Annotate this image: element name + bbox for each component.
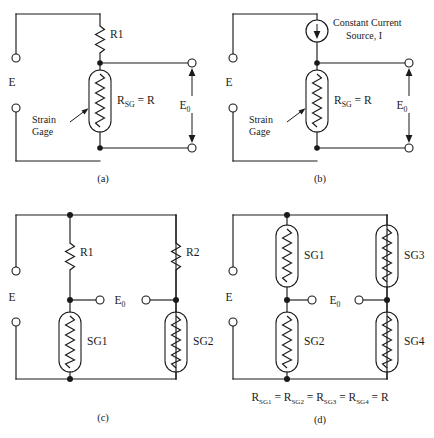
- strain-gage-d-sg1-zigzag: [283, 229, 292, 282]
- supply-terminal-b-top: [229, 54, 237, 62]
- junction-node-c-bottom-left: [67, 376, 73, 382]
- resistor-label-c-r2: R2: [186, 246, 200, 258]
- output-label-b: E0: [397, 99, 408, 114]
- panel-caption-d: (d): [314, 414, 327, 426]
- output-label-c: E0: [115, 294, 126, 309]
- strain-gage-label-b: RSG = R: [334, 94, 372, 109]
- supply-terminal-a-top: [12, 54, 20, 62]
- output-arrow-a-down-head: [189, 135, 196, 143]
- output-terminal-c-left: [96, 296, 104, 304]
- strain-gage-label-c-sg2: SG2: [193, 335, 214, 347]
- circuit-panel-d: E SG1 SG2 SG3: [217, 195, 434, 438]
- resistor-a-r1-symbol: [96, 26, 105, 53]
- supply-terminal-d-top: [229, 267, 237, 275]
- output-label-d: E0: [330, 294, 341, 309]
- supply-label-c: E: [8, 291, 15, 303]
- output-terminal-d-left: [308, 296, 316, 304]
- strain-gage-label-d-sg3: SG3: [404, 249, 425, 261]
- supply-label-b: E: [225, 76, 232, 88]
- output-arrow-b-up-head: [406, 68, 413, 76]
- output-terminal-b-bottom: [405, 144, 413, 152]
- circuit-diagram-a: E R1 RSG = R Strain Gage: [0, 0, 217, 195]
- strain-gage-label-d-sg2: SG2: [304, 335, 325, 347]
- circuit-panel-b: E Constant Current Source, I RSG = R Str…: [217, 0, 434, 195]
- supply-terminal-c-top: [12, 267, 20, 275]
- resistor-label-c-r1: R1: [80, 246, 94, 258]
- supply-terminal-d-bottom: [229, 318, 237, 326]
- panel-caption-b: (b): [314, 173, 327, 185]
- strain-gage-label-a: RSG = R: [117, 94, 155, 109]
- current-source-label-b-line2: Source, I: [346, 30, 382, 41]
- strain-gage-label-d-sg4: SG4: [404, 335, 425, 347]
- supply-terminal-b-bottom: [229, 104, 237, 112]
- circuit-panel-c: E R1 SG1 R2 SG2: [0, 195, 217, 438]
- panel-caption-c: (c): [97, 412, 109, 424]
- output-terminal-a-bottom: [188, 144, 196, 152]
- supply-label-a: E: [8, 76, 15, 88]
- output-terminal-a-top: [188, 59, 196, 67]
- circuit-diagram-d: E SG1 SG2 SG3: [217, 195, 434, 438]
- output-terminal-c-right: [142, 296, 150, 304]
- supply-label-d: E: [225, 291, 232, 303]
- strain-gage-c-sg1-zigzag: [66, 316, 75, 368]
- supply-terminal-a-bottom: [12, 104, 20, 112]
- resistor-label-a-r1: R1: [110, 28, 124, 40]
- strain-gage-d-sg2-zigzag: [283, 316, 292, 368]
- output-terminal-d-right: [355, 296, 363, 304]
- annotation-arrow-head-b: [299, 108, 306, 114]
- circuit-panel-a: E R1 RSG = R Strain Gage: [0, 0, 217, 195]
- output-arrow-b-down-head: [406, 135, 413, 143]
- equation-d: RSG1 = RSG2 = RSG3 = RSG4 = R: [251, 391, 389, 406]
- strain-gage-annotation-b-line2: Gage: [249, 126, 271, 137]
- strain-gage-b-zigzag: [313, 74, 322, 127]
- supply-terminal-c-bottom: [12, 318, 20, 326]
- output-terminal-b-top: [405, 59, 413, 67]
- junction-node-d-bottom-left: [284, 376, 290, 382]
- annotation-arrow-head-a: [82, 108, 89, 114]
- strain-gage-annotation-a-line1: Strain: [32, 114, 56, 125]
- strain-gage-a-zigzag: [96, 74, 105, 127]
- figure-sheet: E R1 RSG = R Strain Gage: [0, 0, 434, 438]
- output-arrow-a-up-head: [189, 68, 196, 76]
- strain-gage-annotation-a-line2: Gage: [32, 126, 54, 137]
- strain-gage-label-d-sg1: SG1: [304, 249, 325, 261]
- current-source-label-b-line1: Constant Current: [333, 17, 402, 28]
- circuit-diagram-b: E Constant Current Source, I RSG = R Str…: [217, 0, 434, 195]
- output-label-a: E0: [180, 99, 191, 114]
- resistor-c-r1-symbol: [66, 243, 75, 270]
- panel-caption-a: (a): [97, 173, 109, 185]
- strain-gage-label-c-sg1: SG1: [87, 335, 108, 347]
- strain-gage-annotation-b-line1: Strain: [249, 114, 273, 125]
- circuit-diagram-c: E R1 SG1 R2 SG2: [0, 195, 217, 438]
